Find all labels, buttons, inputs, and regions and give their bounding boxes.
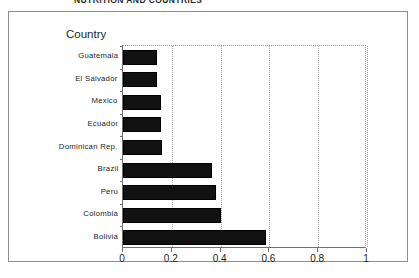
bar — [123, 163, 212, 178]
gridline-vertical — [269, 46, 270, 247]
x-axis-tick-label: 0 — [119, 253, 125, 264]
y-axis-tick-label: Mexico — [92, 96, 118, 105]
x-axis-tick — [366, 248, 367, 252]
y-axis-tick-labels: GuatemalaEl SalvadorMexicoEcuadorDominic… — [21, 45, 118, 248]
bar — [123, 140, 162, 155]
x-axis-tick — [220, 248, 221, 252]
x-axis-tick-label: 1 — [363, 253, 369, 264]
y-axis-tick — [120, 159, 123, 160]
bar — [123, 230, 266, 245]
y-axis-tick — [120, 69, 123, 70]
y-axis-tick — [120, 204, 123, 205]
y-axis-tick — [120, 46, 123, 47]
x-axis-tick-label: 0.8 — [310, 253, 324, 264]
bar — [123, 72, 157, 87]
x-axis-tick — [122, 248, 123, 252]
bar — [123, 185, 216, 200]
y-axis-tick-label: Dominican Rep. — [59, 142, 118, 151]
y-axis-tick — [120, 226, 123, 227]
y-axis-tick-label: Colombia — [83, 209, 118, 218]
y-axis-tick-label: Brazil — [97, 164, 118, 173]
plot-area — [122, 45, 366, 248]
gridline-vertical — [367, 46, 368, 247]
y-axis-tick — [120, 91, 123, 92]
x-axis-ticks — [122, 248, 366, 253]
bar — [123, 95, 161, 110]
x-axis-tick — [268, 248, 269, 252]
gridline-vertical — [318, 46, 319, 247]
y-axis-tick-label: Guatemala — [78, 51, 118, 60]
bar — [123, 117, 161, 132]
x-axis-tick-label: 0.2 — [164, 253, 178, 264]
y-axis-tick — [120, 136, 123, 137]
bar — [123, 50, 157, 65]
y-axis-title: Country — [66, 28, 106, 40]
gridline-vertical — [221, 46, 222, 247]
y-axis-tick-label: Peru — [101, 187, 118, 196]
chart-figure-frame: Country GuatemalaEl SalvadorMexicoEcuado… — [8, 11, 408, 262]
figure-caption-text: NUTRITION AND COUNTRIES — [74, 0, 202, 5]
y-axis-tick-label: Bolivia — [93, 232, 118, 241]
x-axis-tick — [317, 248, 318, 252]
y-axis-tick — [120, 114, 123, 115]
x-axis-tick-label: 0.4 — [213, 253, 227, 264]
bar — [123, 208, 221, 223]
y-axis-tick-label: El Salvador — [76, 74, 118, 83]
figure-caption-strip: NUTRITION AND COUNTRIES — [0, 0, 419, 9]
x-axis-tick — [171, 248, 172, 252]
y-axis-tick — [120, 181, 123, 182]
x-axis-tick-label: 0.6 — [261, 253, 275, 264]
y-axis-tick-label: Ecuador — [87, 119, 118, 128]
